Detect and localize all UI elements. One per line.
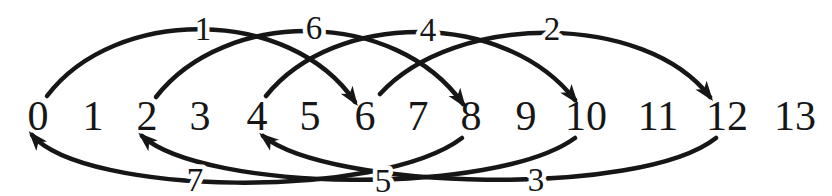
arc-label-7: 7 xyxy=(187,162,204,196)
arc-step-3-from-12-to-4 xyxy=(263,136,716,180)
figure-canvas: 1642753012345678910111213 xyxy=(0,0,832,196)
node-11: 11 xyxy=(638,93,678,139)
node-10: 10 xyxy=(565,93,607,139)
arc-label-6: 6 xyxy=(306,10,323,46)
arc-label-3: 3 xyxy=(528,162,545,196)
arc-label-5: 5 xyxy=(375,163,392,196)
arc-label-1: 1 xyxy=(195,11,212,47)
arc-label-2: 2 xyxy=(544,11,561,47)
node-8: 8 xyxy=(461,93,482,139)
node-0: 0 xyxy=(28,93,49,139)
node-7: 7 xyxy=(408,93,429,139)
arc-label-4: 4 xyxy=(420,12,437,48)
node-12: 12 xyxy=(706,93,748,139)
node-1: 1 xyxy=(83,93,104,139)
node-2: 2 xyxy=(137,93,158,139)
node-3: 3 xyxy=(190,93,211,139)
node-4: 4 xyxy=(247,93,268,139)
node-13: 13 xyxy=(774,93,816,139)
node-6: 6 xyxy=(355,93,376,139)
mod14-cycle-diagram: 1642753012345678910111213 xyxy=(0,0,832,196)
node-5: 5 xyxy=(300,93,321,139)
node-9: 9 xyxy=(516,93,537,139)
